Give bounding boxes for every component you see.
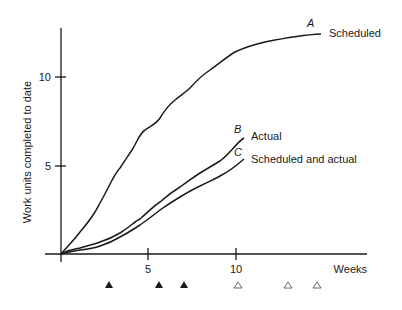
x-tick-label-10: 10: [230, 263, 242, 275]
y-tick-label-10: 10: [39, 71, 51, 83]
curve-c-scheduled-and-actual: [61, 159, 244, 254]
filled-triangle-icon: [155, 281, 163, 288]
open-triangle-markers: [234, 282, 321, 288]
curve-c-letter: C: [234, 146, 242, 158]
y-axis-label: Work units completed to date: [21, 81, 33, 223]
curve-a-letter: A: [306, 17, 314, 29]
open-triangle-icon: [313, 282, 321, 288]
curve-b-label: Actual: [251, 130, 282, 142]
s-curve-chart: 10 5 5 10 Work units completed to date W…: [0, 0, 402, 310]
open-triangle-icon: [284, 282, 292, 288]
filled-triangle-markers: [105, 281, 188, 288]
filled-triangle-icon: [180, 281, 188, 288]
open-triangle-icon: [234, 282, 242, 288]
curve-b-actual: [61, 138, 244, 254]
curve-a-label: Scheduled: [329, 27, 381, 39]
curve-b-letter: B: [234, 123, 241, 135]
x-tick-label-5: 5: [145, 263, 151, 275]
y-tick-label-5: 5: [45, 160, 51, 172]
curve-a-scheduled: [61, 34, 321, 254]
x-axis-label: Weeks: [334, 263, 368, 275]
filled-triangle-icon: [105, 281, 113, 288]
curve-c-label: Scheduled and actual: [251, 153, 357, 165]
